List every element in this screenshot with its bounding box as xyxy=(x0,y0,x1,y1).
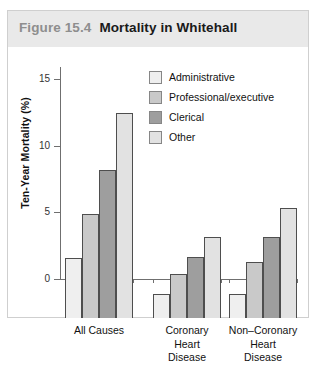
x-axis-group-label: All Causes xyxy=(49,324,149,338)
bar xyxy=(263,237,280,318)
x-axis-tick xyxy=(221,279,222,283)
legend-label: Administrative xyxy=(169,71,235,83)
legend-label: Clerical xyxy=(169,111,204,123)
x-axis-tick xyxy=(297,279,298,283)
bar xyxy=(153,294,170,318)
bar xyxy=(65,258,82,318)
figure-number: Figure 15.4 xyxy=(19,20,91,35)
figure-header-band: Figure 15.4 Mortality in Whitehall xyxy=(8,11,308,47)
x-axis-group-label: Non–CoronaryHeartDisease xyxy=(213,324,313,365)
legend-item: Clerical xyxy=(149,107,274,127)
x-axis-group-label-line: Disease xyxy=(213,351,313,365)
y-axis-tick xyxy=(54,79,60,80)
bar xyxy=(99,170,116,318)
y-axis-tick xyxy=(54,146,60,147)
y-axis-tick-label: 5 xyxy=(24,206,50,217)
legend-swatch xyxy=(149,91,162,104)
figure-title: Mortality in Whitehall xyxy=(99,20,237,35)
y-axis-line xyxy=(60,67,61,280)
figure-container: Figure 15.4 Mortality in Whitehall Ten-Y… xyxy=(7,10,309,318)
legend-item: Other xyxy=(149,127,274,147)
bar xyxy=(280,208,297,318)
legend-swatch xyxy=(149,131,162,144)
y-axis-tick-label: 0 xyxy=(24,273,50,284)
chart-legend: AdministrativeProfessional/executiveCler… xyxy=(149,67,274,147)
bar xyxy=(204,237,221,318)
x-axis-group-label-line: Heart xyxy=(213,338,313,352)
legend-swatch xyxy=(149,111,162,124)
x-axis-group-label-line: All Causes xyxy=(49,324,149,338)
figure-header: Figure 15.4 Mortality in Whitehall xyxy=(19,20,237,35)
y-axis-tick xyxy=(54,212,60,213)
legend-label: Professional/executive xyxy=(169,91,274,103)
bar xyxy=(116,113,133,318)
legend-label: Other xyxy=(169,131,195,143)
bar xyxy=(246,262,263,318)
y-axis-tick-label: 10 xyxy=(24,140,50,151)
legend-swatch xyxy=(149,71,162,84)
chart-plot-area: Ten-Year Mortality (%) 051015 All Causes… xyxy=(8,47,310,318)
bar-group-bars xyxy=(65,105,133,318)
x-axis-group-label-line: Non–Coronary xyxy=(213,324,313,338)
y-axis-tick xyxy=(54,279,60,280)
x-axis-tick xyxy=(133,279,134,283)
y-axis-title: Ten-Year Mortality (%) xyxy=(19,58,31,248)
bar xyxy=(82,214,99,318)
y-axis-tick-label: 15 xyxy=(24,73,50,84)
legend-item: Professional/executive xyxy=(149,87,274,107)
bar xyxy=(170,274,187,318)
legend-item: Administrative xyxy=(149,67,274,87)
bar xyxy=(187,257,204,318)
bar xyxy=(229,294,246,318)
